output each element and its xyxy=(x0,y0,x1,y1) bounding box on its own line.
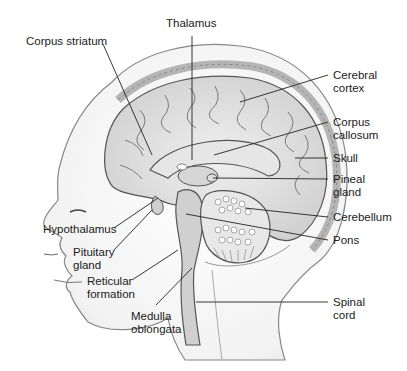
label-pituitary-gland-line1: Pituitary xyxy=(73,246,115,259)
label-pineal-gland-line2: gland xyxy=(333,186,361,199)
label-medulla-oblongata-line1: Medulla xyxy=(131,310,171,323)
label-spinal-cord-line2: cord xyxy=(333,309,355,322)
label-skull: Skull xyxy=(333,152,358,165)
label-cerebral-cortex-line2: cortex xyxy=(333,82,364,95)
label-reticular-formation-line2: formation xyxy=(87,288,135,301)
brain-anatomy-diagram: Thalamus Corpus striatum Cerebral cortex… xyxy=(0,0,407,371)
label-corpus-callosum-line2: callosum xyxy=(333,129,378,142)
label-cerebral-cortex-line1: Cerebral xyxy=(333,69,377,82)
nostril xyxy=(44,254,58,255)
label-corpus-callosum-line1: Corpus xyxy=(333,116,370,129)
label-thalamus: Thalamus xyxy=(166,17,217,30)
label-pons: Pons xyxy=(333,234,359,247)
label-medulla-oblongata-line2: oblongata xyxy=(131,323,182,336)
label-pituitary-gland-line2: gland xyxy=(73,259,101,272)
label-cerebellum: Cerebellum xyxy=(333,211,392,224)
label-spinal-cord-line1: Spinal xyxy=(333,296,365,309)
label-corpus-striatum: Corpus striatum xyxy=(26,35,107,48)
label-hypothalamus: Hypothalamus xyxy=(43,223,117,236)
label-reticular-formation-line1: Reticular xyxy=(87,275,132,288)
label-pineal-gland-line1: Pineal xyxy=(333,173,365,186)
